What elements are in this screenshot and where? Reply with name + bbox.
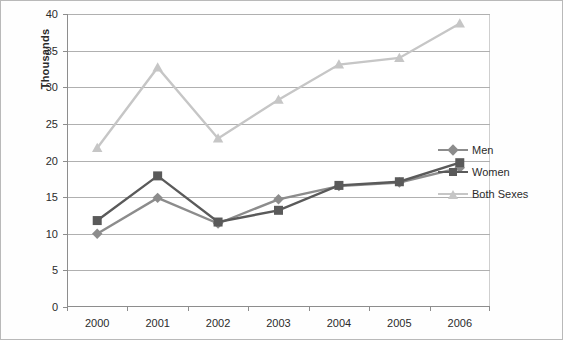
data-point-men xyxy=(152,193,162,203)
x-tick-label: 2000 xyxy=(67,317,127,329)
x-tick-label: 2001 xyxy=(128,317,188,329)
data-point-women xyxy=(334,181,343,190)
data-point-women xyxy=(214,218,223,227)
series-line-both-sexes xyxy=(97,24,460,149)
y-tick-label: 40 xyxy=(18,8,58,20)
legend-swatch-triangle-icon xyxy=(438,187,468,201)
data-point-women xyxy=(395,177,404,186)
legend-item-men[interactable]: Men xyxy=(438,139,558,161)
legend-swatch-diamond-icon xyxy=(438,143,468,157)
x-tick-label: 2004 xyxy=(309,317,369,329)
series-layer xyxy=(67,14,490,307)
y-tick-label: 20 xyxy=(18,155,58,167)
data-point-women xyxy=(274,206,283,215)
y-tick-label: 5 xyxy=(18,264,58,276)
legend-label: Women xyxy=(472,166,510,178)
legend-item-women[interactable]: Women xyxy=(438,161,558,183)
x-tick-label: 2006 xyxy=(430,317,490,329)
plot-area: 0510152025303540 20002001200220032004200… xyxy=(67,14,490,307)
data-point-both-sexes xyxy=(273,95,283,104)
data-point-both-sexes xyxy=(455,18,465,27)
data-point-both-sexes xyxy=(152,62,162,71)
data-point-men xyxy=(273,194,283,204)
y-tick-label: 30 xyxy=(18,81,58,93)
legend-label: Both Sexes xyxy=(472,188,528,200)
legend-swatch-square-icon xyxy=(438,165,468,179)
x-tick-label: 2005 xyxy=(369,317,429,329)
x-tick-label: 2002 xyxy=(188,317,248,329)
x-tick-label: 2003 xyxy=(249,317,309,329)
data-point-women xyxy=(153,171,162,180)
chart-legend: MenWomenBoth Sexes xyxy=(438,139,558,205)
chart-container: Thousands 0510152025303540 2000200120022… xyxy=(0,0,563,340)
y-tick-label: 25 xyxy=(18,118,58,130)
data-point-women xyxy=(93,216,102,225)
data-point-men xyxy=(92,229,102,239)
legend-label: Men xyxy=(472,144,493,156)
y-tick-label: 35 xyxy=(18,45,58,57)
y-tick-label: 0 xyxy=(18,301,58,313)
y-tick-label: 15 xyxy=(18,191,58,203)
legend-item-both-sexes[interactable]: Both Sexes xyxy=(438,183,558,205)
y-tick-label: 10 xyxy=(18,228,58,240)
